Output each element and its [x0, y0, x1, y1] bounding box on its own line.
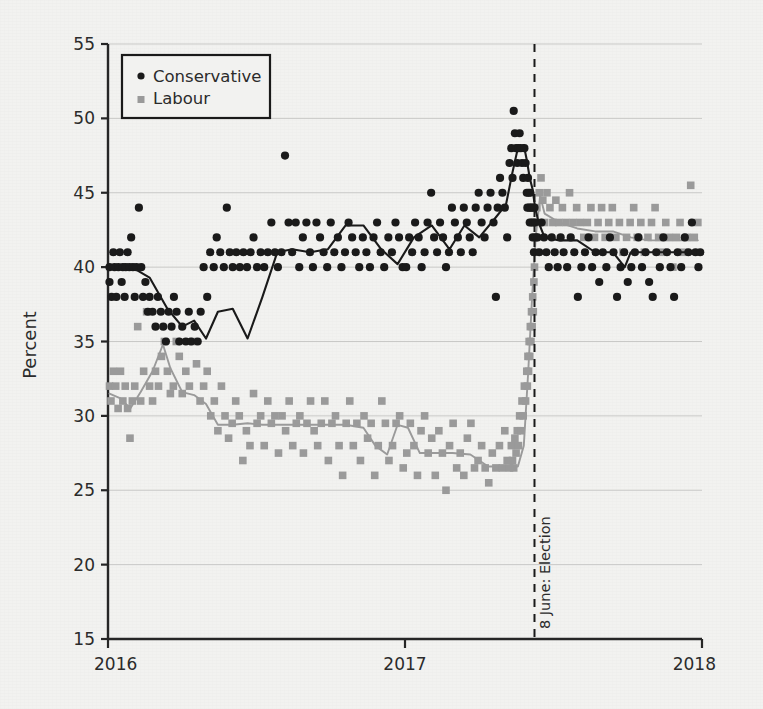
- data-point: [220, 263, 228, 271]
- data-point: [253, 420, 261, 428]
- data-point: [323, 263, 331, 271]
- data-point: [634, 233, 642, 241]
- data-point: [366, 263, 374, 271]
- data-point: [155, 382, 163, 390]
- data-point: [617, 263, 625, 271]
- data-point: [129, 397, 137, 405]
- data-point: [178, 323, 186, 331]
- data-point: [421, 248, 429, 256]
- data-point: [378, 397, 386, 405]
- data-point: [460, 472, 468, 480]
- data-point: [557, 233, 565, 241]
- data-point: [570, 248, 578, 256]
- data-point: [427, 189, 435, 197]
- y-tick-label: 25: [73, 480, 95, 500]
- data-point: [164, 367, 172, 375]
- x-axis-tick-labels: 201620172018: [94, 654, 716, 674]
- data-point: [492, 464, 500, 472]
- data-point: [609, 248, 617, 256]
- data-point: [137, 397, 145, 405]
- data-point: [576, 219, 584, 227]
- data-point: [543, 189, 551, 197]
- data-point: [592, 248, 600, 256]
- data-point: [371, 472, 379, 480]
- data-point: [264, 248, 272, 256]
- data-point: [620, 248, 628, 256]
- data-point: [342, 420, 350, 428]
- data-point: [218, 382, 226, 390]
- data-point: [656, 263, 664, 271]
- data-point: [587, 204, 595, 212]
- y-tick-label: 45: [73, 183, 95, 203]
- data-point: [424, 449, 432, 457]
- data-point: [588, 263, 596, 271]
- data-point: [436, 218, 444, 226]
- data-point: [152, 367, 160, 375]
- data-point: [694, 263, 702, 271]
- data-point: [630, 204, 638, 212]
- data-point: [649, 293, 657, 301]
- data-point: [645, 278, 653, 286]
- data-point: [546, 204, 554, 212]
- data-point: [328, 420, 336, 428]
- data-point: [346, 397, 354, 405]
- x-tick-label: 2016: [94, 654, 137, 674]
- data-point: [116, 248, 124, 256]
- data-point: [423, 218, 431, 226]
- data-point: [196, 397, 204, 405]
- y-axis-title: Percent: [19, 311, 40, 379]
- data-point: [414, 472, 422, 480]
- x-tick-label: 2018: [673, 654, 716, 674]
- data-point: [357, 457, 365, 465]
- data-point: [516, 129, 524, 137]
- data-point: [688, 218, 696, 226]
- data-point: [335, 442, 343, 450]
- data-point: [609, 204, 617, 212]
- data-point: [467, 420, 475, 428]
- data-point: [624, 278, 632, 286]
- data-point: [260, 263, 268, 271]
- data-point: [559, 204, 567, 212]
- data-point: [317, 420, 325, 428]
- data-point: [164, 308, 172, 316]
- data-point: [303, 420, 311, 428]
- data-point: [260, 442, 268, 450]
- data-point: [535, 248, 543, 256]
- data-point: [486, 189, 494, 197]
- data-point: [445, 248, 453, 256]
- data-point: [472, 204, 480, 212]
- data-point: [446, 442, 454, 450]
- poll-tracker-chart: 152025303540455055 201620172018 Percent …: [0, 0, 763, 709]
- data-point: [310, 427, 318, 435]
- data-point: [110, 367, 118, 375]
- data-point: [149, 397, 157, 405]
- data-point: [456, 449, 464, 457]
- data-point: [613, 293, 621, 301]
- data-point: [385, 457, 393, 465]
- data-point: [337, 263, 345, 271]
- data-point: [539, 196, 547, 204]
- data-point: [511, 434, 519, 442]
- data-point: [562, 219, 570, 227]
- data-point: [314, 442, 322, 450]
- data-point: [264, 397, 272, 405]
- data-point: [407, 420, 415, 428]
- data-point: [602, 263, 610, 271]
- gridlines-group: [108, 44, 702, 565]
- data-point: [140, 367, 148, 375]
- data-point: [225, 434, 233, 442]
- data-point: [170, 382, 178, 390]
- data-point: [271, 412, 279, 420]
- data-point: [170, 293, 178, 301]
- data-point: [307, 397, 315, 405]
- data-point: [223, 204, 231, 212]
- data-point: [524, 174, 532, 182]
- data-point: [207, 412, 215, 420]
- data-point: [411, 218, 419, 226]
- data-point: [167, 390, 175, 398]
- data-point: [501, 204, 509, 212]
- data-point: [267, 218, 275, 226]
- y-tick-label: 55: [73, 34, 95, 54]
- data-point: [249, 233, 257, 241]
- data-point: [677, 263, 685, 271]
